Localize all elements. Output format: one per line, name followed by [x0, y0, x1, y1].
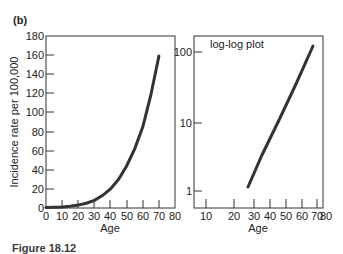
x-tick-label: 20 — [72, 210, 84, 222]
y-tick-label: 1 — [186, 185, 192, 197]
log-log-line — [248, 46, 313, 187]
x-tick-label: 30 — [248, 210, 260, 222]
x-tick-label: 60 — [296, 210, 308, 222]
x-tick-label: 40 — [104, 210, 116, 222]
x-tick-label: 40 — [264, 210, 276, 222]
y-tick-label: 160 — [26, 49, 44, 61]
y-tick-label: 80 — [32, 126, 44, 138]
linear-x-axis-label: Age — [100, 222, 120, 234]
y-tick-label: 40 — [32, 164, 44, 176]
incidence-curve — [46, 56, 159, 207]
linear-plot: 020406080100120140160180 010203040506070… — [8, 30, 181, 234]
x-tick-label: 50 — [280, 210, 292, 222]
log-y-axis: 110100 — [174, 46, 202, 197]
linear-x-axis: 01020304050607080 — [43, 200, 181, 222]
figure-caption: Figure 18.12 — [12, 242, 76, 254]
x-tick-label: 80 — [320, 210, 332, 222]
x-tick-label: 60 — [137, 210, 149, 222]
log-log-plot-frame — [194, 36, 323, 208]
x-tick-label: 30 — [88, 210, 100, 222]
log-log-plot: 110100 1020304050607080 log-log plot Age — [174, 36, 332, 234]
x-tick-label: 50 — [121, 210, 133, 222]
log-x-axis-label: Age — [248, 222, 268, 234]
y-tick-label: 60 — [32, 145, 44, 157]
x-tick-label: 10 — [200, 210, 212, 222]
y-tick-label: 140 — [26, 68, 44, 80]
y-tick-label: 180 — [26, 30, 44, 42]
x-tick-label: 70 — [153, 210, 165, 222]
log-log-plot-title: log-log plot — [210, 38, 264, 50]
y-tick-label: 100 — [26, 106, 44, 118]
x-tick-label: 20 — [228, 210, 240, 222]
x-tick-label: 80 — [169, 210, 181, 222]
y-tick-label: 20 — [32, 183, 44, 195]
linear-y-axis: 020406080100120140160180 — [26, 30, 54, 214]
linear-plot-frame — [46, 36, 175, 208]
x-tick-label: 0 — [43, 210, 49, 222]
y-tick-label: 120 — [26, 87, 44, 99]
y-tick-label: 10 — [180, 117, 192, 129]
log-x-axis: 1020304050607080 — [200, 199, 332, 222]
x-tick-label: 10 — [56, 210, 68, 222]
linear-y-axis-label: Incidence rate per 100,000 — [8, 57, 20, 188]
y-tick-label: 100 — [174, 46, 192, 58]
